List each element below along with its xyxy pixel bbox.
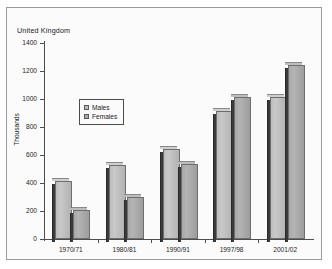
y-axis-tick [40, 99, 44, 100]
y-axis-tick [40, 183, 44, 184]
y-axis-tick-label-wrap: 600 [8, 151, 37, 159]
bar-front-face [181, 164, 198, 239]
bar-females-2001-02 [288, 65, 305, 239]
chart-title: United Kingdom [17, 26, 70, 35]
x-axis-tick [98, 239, 99, 243]
bar-front-face [288, 65, 305, 239]
y-axis-tick-label: 400 [8, 179, 37, 186]
y-axis-tick [40, 71, 44, 72]
bar-front-face [73, 210, 90, 239]
y-axis-line [44, 41, 45, 241]
y-axis-tick-label-wrap: 1400 [8, 39, 37, 47]
legend-label: Males [92, 103, 110, 112]
x-axis-tick-label: 2001/02 [258, 246, 312, 253]
y-axis-tick [40, 43, 44, 44]
y-axis-tick-label-wrap: 1200 [8, 67, 37, 75]
x-axis-tick [258, 239, 259, 243]
y-axis-tick-label: 600 [8, 151, 37, 158]
legend-swatch-icon [84, 105, 89, 110]
y-axis-tick-label-wrap: 400 [8, 179, 37, 187]
chart-figure: United Kingdom Thousands 020040060080010… [0, 0, 332, 269]
x-axis-tick-label: 1980/81 [98, 246, 152, 253]
bar-front-face [127, 197, 144, 239]
y-axis-tick-label-wrap: 800 [8, 123, 37, 131]
legend-item-males: Males [84, 103, 117, 112]
y-axis-tick [40, 127, 44, 128]
bar-females-1997-98 [234, 97, 251, 239]
chart-legend: MalesFemales [79, 99, 124, 125]
bar-females-1980-81 [127, 197, 144, 239]
legend-label: Females [92, 112, 117, 121]
bar-front-face [234, 97, 251, 239]
y-axis-tick-label-wrap: 1000 [8, 95, 37, 103]
x-axis-tick [205, 239, 206, 243]
bar-females-1970-71 [73, 210, 90, 239]
y-axis-tick-label: 800 [8, 123, 37, 130]
x-axis-tick [151, 239, 152, 243]
y-axis-tick-label-wrap: 200 [8, 207, 37, 215]
legend-item-females: Females [84, 112, 117, 121]
y-axis-tick-label: 1400 [8, 39, 37, 46]
y-axis-tick-label: 1000 [8, 95, 37, 102]
y-axis-tick-label: 200 [8, 207, 37, 214]
x-axis-tick-label: 1990/91 [151, 246, 205, 253]
y-axis-tick [40, 155, 44, 156]
y-axis-tick-label-wrap: 0 [8, 235, 37, 243]
x-axis-tick-label: 1970/71 [44, 246, 98, 253]
y-axis-tick [40, 239, 44, 240]
bar-females-1990-91 [181, 164, 198, 239]
y-axis-tick [40, 211, 44, 212]
y-axis-tick-label: 1200 [8, 67, 37, 74]
x-axis-tick-label: 1997/98 [205, 246, 259, 253]
legend-swatch-icon [84, 114, 89, 119]
y-axis-tick-label: 0 [8, 235, 37, 242]
